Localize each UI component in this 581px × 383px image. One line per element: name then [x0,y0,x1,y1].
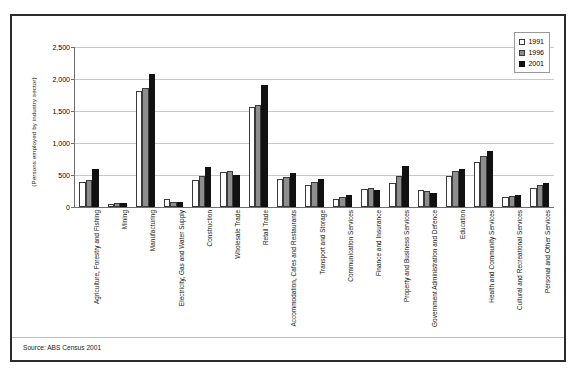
x-category-label: Manufacturing [148,210,158,346]
x-category-label: Health and Community Services [487,210,497,346]
gray-square-icon [519,50,525,56]
bar-group [305,47,324,207]
bar-group [277,47,296,207]
open-square-icon [519,39,525,45]
bottom-cropped-text [0,371,581,381]
plot-area [74,47,554,208]
bar [318,179,324,207]
source-note: Source: ABS Census 2001 [23,344,101,351]
bar [374,190,380,207]
bar [261,85,267,207]
legend-row: 2001 [519,58,544,69]
bar-group [79,47,98,207]
x-category-label: Construction [205,210,215,346]
legend-label: 1991 [528,38,544,45]
x-category-label: Transport and Storage [318,210,328,346]
bar [233,175,239,207]
chart-legend: 199119962001 [514,32,550,73]
bar-group [220,47,239,207]
bar [290,173,296,207]
bar-group [418,47,437,207]
x-category-label: Cultural and Recreational Services [515,210,525,346]
bar-group [446,47,465,207]
x-category-label: Accommodation, Cafes and Restaurants [289,210,299,346]
x-category-label: Education [458,210,468,346]
bar [402,166,408,207]
y-tick-label: 500 [36,172,70,179]
y-tick-label: 1,000 [36,140,70,147]
legend-label: 2001 [528,60,544,67]
legend-row: 1991 [519,36,544,47]
bar [543,183,549,207]
y-tick-label: 2,000 [36,76,70,83]
bar [92,169,98,207]
x-category-label: Property and Business Services [402,210,412,346]
bar-group [249,47,268,207]
bar [346,195,352,207]
legend-label: 1996 [528,49,544,56]
x-category-label: Mining [120,210,130,346]
bar [177,202,183,207]
y-axis-tick-labels: 05001,0001,5002,0002,500 [36,16,70,360]
x-category-label: Retail Trade [261,210,271,346]
x-category-label: Finance and Insurance [374,210,384,346]
bars-layer [75,47,554,207]
x-category-label: Electricity, Gas and Water Supply [177,210,187,346]
x-category-label: Government Administration and Defence [430,210,440,346]
x-category-label: Personal and Other Services [543,210,553,346]
bar [205,167,211,207]
y-tickmark [71,207,75,208]
x-category-label: Wholesale Trade [233,210,243,346]
source-divider [12,337,564,338]
bar-group [361,47,380,207]
bar-group [164,47,183,207]
filled-square-icon [519,61,525,67]
bar-group [474,47,493,207]
bar-group [192,47,211,207]
legend-row: 1996 [519,47,544,58]
bar [149,74,155,207]
chart-figure-frame: (Persons employed by industry sector) 05… [10,14,566,362]
x-category-label: Communication Services [346,210,356,346]
y-tick-label: 0 [36,204,70,211]
bar [515,195,521,207]
bar-group [333,47,352,207]
bar [430,193,436,207]
top-cropped-text [0,1,581,11]
bar [120,203,126,207]
bar [459,169,465,207]
bar-group [389,47,408,207]
bar-group [108,47,127,207]
y-tick-label: 1,500 [36,108,70,115]
x-category-label: Agriculture, Forestry and Fishing [92,210,102,346]
x-axis-category-labels: Agriculture, Forestry and FishingMiningM… [74,210,553,350]
bar-group [136,47,155,207]
y-tick-label: 2,500 [36,44,70,51]
bar [487,151,493,207]
